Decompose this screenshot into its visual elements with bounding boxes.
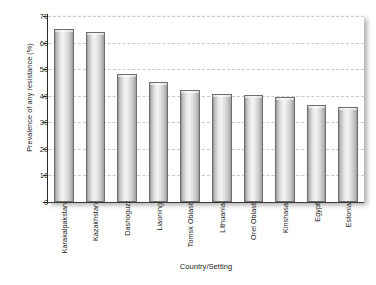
bar-highlight <box>87 33 105 35</box>
x-axis-tick-label: Kazakhstan <box>91 203 100 241</box>
bar[interactable] <box>149 82 169 202</box>
x-axis-label-slot: Lithuania <box>206 203 238 255</box>
bar[interactable] <box>212 94 232 202</box>
y-axis-tick-mark <box>43 175 48 176</box>
gridline <box>48 16 364 17</box>
bar[interactable] <box>307 105 327 202</box>
x-axis-label-slot: Orel Oblast <box>238 203 270 255</box>
x-axis-label-slot: Dashoguz <box>111 203 143 255</box>
bar[interactable] <box>180 90 200 202</box>
bar-highlight <box>245 96 263 98</box>
bar-highlight <box>339 108 357 110</box>
x-axis-title: Country/Setting <box>48 262 364 271</box>
bar-highlight <box>118 75 136 77</box>
y-axis-tick-mark <box>43 43 48 44</box>
y-axis-tick-mark <box>43 202 48 203</box>
bar-highlight <box>213 95 231 97</box>
y-axis-tick-mark <box>43 96 48 97</box>
x-axis-tick-label: Egypt <box>312 203 321 222</box>
y-axis-tick-mark <box>43 69 48 70</box>
bar[interactable] <box>54 29 74 202</box>
x-axis-tick-label: Kinshasa <box>280 203 289 233</box>
plot-area <box>48 16 364 202</box>
bar[interactable] <box>244 95 264 202</box>
x-axis-label-slot: Liaoning <box>143 203 175 255</box>
y-axis-tick-mark <box>43 122 48 123</box>
x-axis-label-slot: Kazakhstan <box>80 203 112 255</box>
bar-highlight <box>55 30 73 32</box>
x-axis-label-slot: Kinshasa <box>269 203 301 255</box>
bar[interactable] <box>338 107 358 202</box>
y-axis-tick-mark <box>43 149 48 150</box>
bar[interactable] <box>86 32 106 202</box>
x-axis-tick-label: Tomsk Oblast <box>186 203 195 247</box>
x-axis-tick-label: Karakalpakstan <box>59 203 68 253</box>
bar-highlight <box>150 83 168 85</box>
x-axis-tick-label: Lithuania <box>217 203 226 233</box>
x-axis-label-slot: Egypt <box>301 203 333 255</box>
x-axis-tick-labels: KarakalpakstanKazakhstanDashoguzLiaoning… <box>48 203 364 255</box>
bar-chart: Prevalence of any resistance (%) 0102030… <box>0 0 376 285</box>
bar[interactable] <box>117 74 137 202</box>
bar[interactable] <box>275 97 295 202</box>
y-axis-tick-mark <box>43 16 48 17</box>
x-axis-tick-label: Dashoguz <box>122 203 131 236</box>
bar-highlight <box>276 98 294 100</box>
x-axis-tick-label: Orel Oblast <box>249 203 258 240</box>
y-axis-tick-labels: 010203040506070 <box>28 12 48 202</box>
x-axis-tick-label: Liaoning <box>154 203 163 231</box>
x-axis-label-slot: Estonia <box>332 203 364 255</box>
x-axis-tick-label: Estonia <box>344 203 353 227</box>
bar-highlight <box>181 91 199 93</box>
x-axis-label-slot: Tomsk Oblast <box>174 203 206 255</box>
x-axis-label-slot: Karakalpakstan <box>48 203 80 255</box>
plot-inner <box>48 16 364 202</box>
bar-highlight <box>308 106 326 108</box>
